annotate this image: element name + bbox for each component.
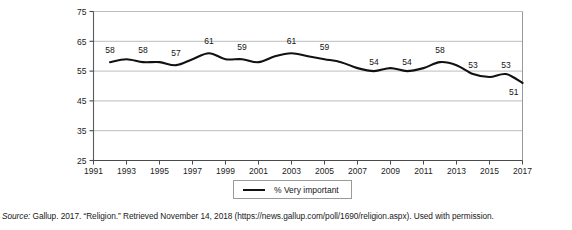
source-label: Source: xyxy=(2,211,30,221)
ytick-label-65: 65 xyxy=(77,37,87,47)
ytick-label-45: 45 xyxy=(77,96,87,106)
data-label-2005: 59 xyxy=(320,42,330,52)
xtick-label-1995: 1995 xyxy=(150,166,169,176)
data-label-1998: 61 xyxy=(204,36,214,46)
xtick-label-2011: 2011 xyxy=(414,166,433,176)
xtick-label-2001: 2001 xyxy=(249,166,268,176)
ytick-label-35: 35 xyxy=(77,126,87,136)
data-label-2000: 59 xyxy=(237,42,247,52)
data-label-1992: 58 xyxy=(105,45,115,55)
xtick-label-2013: 2013 xyxy=(447,166,466,176)
data-label-2010: 54 xyxy=(402,57,412,67)
xtick-label-2017: 2017 xyxy=(513,166,532,176)
chart-legend: % Very important xyxy=(233,180,352,199)
data-label-2017: 51 xyxy=(509,87,519,97)
xtick-label-1997: 1997 xyxy=(183,166,202,176)
xtick-label-2005: 2005 xyxy=(315,166,334,176)
figure-container: 2535455565751991199319951997199920012003… xyxy=(0,0,572,230)
data-label-2016: 53 xyxy=(501,60,511,70)
xtick-label-1993: 1993 xyxy=(117,166,136,176)
data-label-1994: 58 xyxy=(138,45,148,55)
data-label-2003: 61 xyxy=(287,36,297,46)
source-caption: Source: Gallup. 2017. “Religion.” Retrie… xyxy=(2,211,572,221)
xtick-label-2009: 2009 xyxy=(381,166,400,176)
legend-label-very-important: % Very important xyxy=(274,185,339,195)
data-label-1996: 57 xyxy=(171,48,181,58)
ytick-label-75: 75 xyxy=(77,7,87,17)
data-label-2008: 54 xyxy=(369,57,379,67)
legend-line-swatch xyxy=(243,189,265,191)
xtick-label-2015: 2015 xyxy=(480,166,499,176)
chart-plot-area: 2535455565751991199319951997199920012003… xyxy=(0,0,572,205)
data-label-2014: 53 xyxy=(468,60,478,70)
data-label-2012: 58 xyxy=(435,45,445,55)
ytick-label-25: 25 xyxy=(77,156,87,166)
xtick-label-1991: 1991 xyxy=(84,166,103,176)
ytick-label-55: 55 xyxy=(77,66,87,76)
source-body: Gallup. 2017. “Religion.” Retrieved Nove… xyxy=(30,211,494,221)
xtick-label-2007: 2007 xyxy=(348,166,367,176)
line-chart: 2535455565751991199319951997199920012003… xyxy=(0,0,572,205)
xtick-label-2003: 2003 xyxy=(282,166,301,176)
xtick-label-1999: 1999 xyxy=(216,166,235,176)
